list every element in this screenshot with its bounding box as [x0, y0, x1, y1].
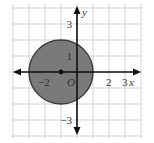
- x-tick-label: −2: [38, 76, 50, 88]
- coordinate-plane: −22331−3 x y O: [0, 0, 154, 143]
- y-axis-arrow-down-icon: [74, 127, 81, 135]
- circle-center-point: [59, 70, 64, 75]
- y-tick-label: −3: [60, 114, 72, 126]
- y-tick-label: 1: [67, 50, 73, 62]
- y-axis-label: y: [81, 6, 87, 18]
- y-axis-arrow-up-icon: [74, 6, 81, 14]
- y-tick-label: 3: [67, 18, 73, 30]
- x-tick-label: 2: [106, 76, 112, 88]
- x-axis-arrow-left-icon: [13, 69, 21, 76]
- x-tick-label: 3: [122, 76, 128, 88]
- x-axis-arrow-right-icon: [133, 69, 141, 76]
- x-axis-label: x: [128, 76, 134, 88]
- origin-label: O: [67, 76, 75, 88]
